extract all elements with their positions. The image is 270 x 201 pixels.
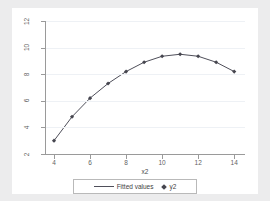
data-point xyxy=(196,54,200,58)
diamond-marker-icon xyxy=(162,184,168,190)
plot-region xyxy=(45,21,245,154)
data-point xyxy=(178,52,182,56)
legend-label-fitted-values: Fitted values xyxy=(117,183,154,191)
y-axis-tick xyxy=(41,48,45,49)
y-axis-tick xyxy=(41,154,45,155)
x-axis-tick-label: 10 xyxy=(152,159,172,167)
x-axis-title: x2 xyxy=(45,168,245,175)
legend-label-y2: y2 xyxy=(169,183,176,191)
y-axis-tick xyxy=(41,74,45,75)
y-axis-tick-label: 8 xyxy=(12,71,41,78)
gridline xyxy=(45,48,245,49)
x-axis-line xyxy=(45,154,245,155)
y-axis-tick-label: 6 xyxy=(12,97,41,104)
x-axis-tick-label: 8 xyxy=(116,159,136,167)
chart-legend: Fitted values y2 xyxy=(73,179,197,194)
data-plot xyxy=(45,21,245,154)
figure-root: 24681012 468101214 x2 Fitted values y2 xyxy=(0,0,270,201)
gridline xyxy=(45,101,245,102)
x-axis-tick-label: 12 xyxy=(188,159,208,167)
data-point xyxy=(214,60,218,64)
y-axis-tick-label: 10 xyxy=(12,44,41,51)
graph-card: 24681012 468101214 x2 Fitted values y2 xyxy=(12,8,258,194)
legend-entry-fitted-values[interactable]: Fitted values xyxy=(94,183,154,191)
data-point xyxy=(160,54,164,58)
gridline xyxy=(45,21,245,22)
y-axis-tick xyxy=(41,21,45,22)
line-swatch-icon xyxy=(94,186,114,187)
x-axis-tick-label: 4 xyxy=(44,159,64,167)
x-axis-tick-label: 14 xyxy=(224,159,244,167)
gridline xyxy=(45,127,245,128)
y-axis-tick-label: 4 xyxy=(12,124,41,131)
y-axis-tick-label: 2 xyxy=(12,151,41,158)
x-axis-tick-label: 6 xyxy=(80,159,100,167)
y2-marker-group xyxy=(52,52,236,143)
data-point xyxy=(232,69,236,73)
y-axis-tick-label: 12 xyxy=(12,18,41,25)
y-axis-tick xyxy=(41,101,45,102)
legend-entry-y2[interactable]: y2 xyxy=(162,183,176,191)
data-point xyxy=(142,60,146,64)
y-axis-line xyxy=(45,21,46,154)
gridline xyxy=(45,74,245,75)
y-axis-tick xyxy=(41,127,45,128)
